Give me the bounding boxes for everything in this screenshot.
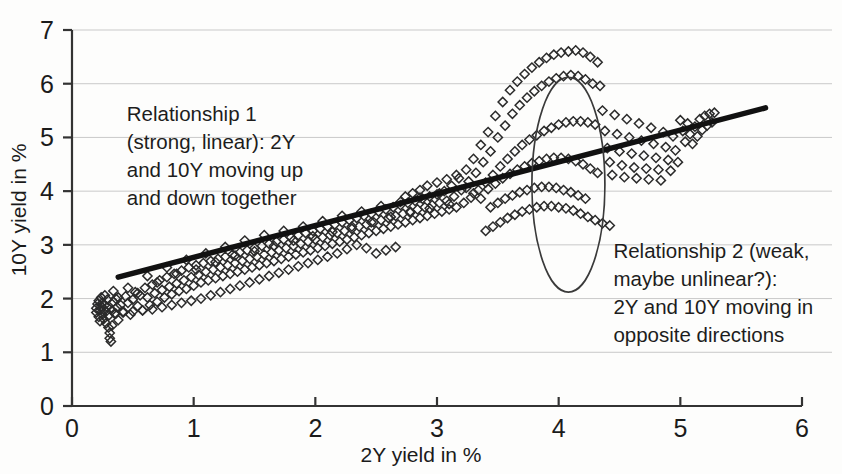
data-point-marker	[644, 175, 653, 184]
data-point-marker	[608, 170, 617, 179]
x-tick-label: 5	[673, 414, 687, 442]
data-point-marker	[520, 69, 529, 78]
x-tick-label: 4	[552, 414, 566, 442]
data-point-marker	[661, 142, 670, 151]
data-point-marker	[226, 284, 235, 293]
data-point-marker	[503, 154, 512, 163]
axis-ticks	[63, 30, 802, 406]
data-point-marker	[642, 164, 651, 173]
y-tick-label: 0	[40, 392, 54, 420]
data-point-marker	[673, 158, 682, 167]
data-point-marker	[664, 155, 673, 164]
data-point-marker	[177, 298, 186, 307]
x-tick-label: 2	[308, 414, 322, 442]
data-point-marker	[235, 281, 244, 290]
data-point-marker	[647, 123, 656, 132]
annotation-line: 2Y and 10Y moving in	[613, 295, 813, 318]
x-tick-label: 0	[65, 414, 79, 442]
x-axis-title: 2Y yield in %	[360, 443, 481, 466]
annotation-line: (strong, linear): 2Y	[127, 130, 296, 153]
data-point-marker	[617, 161, 626, 170]
data-point-marker	[501, 121, 510, 130]
data-point-marker	[671, 146, 680, 155]
data-point-marker	[432, 178, 441, 187]
x-tick-labels: 0123456	[65, 414, 809, 442]
annotation-line: opposite directions	[613, 323, 784, 346]
data-point-marker	[381, 246, 390, 255]
data-point-marker	[469, 154, 478, 163]
data-point-marker	[634, 119, 643, 128]
data-point-marker	[510, 147, 519, 156]
data-point-marker	[486, 147, 495, 156]
highlight-ellipse	[532, 77, 605, 292]
data-point-marker	[294, 262, 303, 271]
annotation-line: and down together	[127, 186, 297, 209]
data-point-marker	[630, 163, 639, 172]
data-point-marker	[513, 77, 522, 86]
data-point-marker	[476, 194, 485, 203]
data-point-marker	[620, 173, 629, 182]
data-point-marker	[274, 268, 283, 277]
data-point-marker	[187, 296, 196, 305]
data-point-marker	[505, 86, 514, 95]
y-tick-label: 4	[40, 177, 54, 205]
y-tick-label: 2	[40, 285, 54, 313]
data-point-marker	[303, 259, 312, 268]
data-point-marker	[284, 265, 293, 274]
data-point-marker	[530, 87, 539, 96]
y-tick-label: 5	[40, 123, 54, 151]
data-point-marker	[471, 168, 480, 177]
y-tick-label: 6	[40, 70, 54, 98]
data-point-marker	[255, 275, 264, 284]
y-tick-label: 3	[40, 231, 54, 259]
data-point-marker	[522, 93, 531, 102]
data-point-marker	[593, 58, 602, 67]
x-tick-label: 1	[187, 414, 201, 442]
data-point-marker	[484, 127, 493, 136]
y-tick-labels: 01234567	[40, 16, 54, 420]
data-point-marker	[491, 111, 500, 120]
data-point-marker	[666, 166, 675, 175]
data-point-marker	[333, 249, 342, 258]
data-point-marker	[245, 278, 254, 287]
y-tick-label: 7	[40, 16, 54, 44]
scatter-plot-figure: 0123456 01234567 Relationship 1(strong, …	[0, 0, 842, 474]
annotation-labels: Relationship 1(strong, linear): 2Yand 10…	[127, 102, 814, 346]
data-point-marker	[496, 162, 505, 171]
data-point-marker	[138, 306, 147, 315]
data-point-marker	[167, 300, 176, 309]
data-point-marker	[342, 245, 351, 254]
data-point-marker	[639, 151, 648, 160]
data-point-marker	[476, 140, 485, 149]
x-tick-label: 3	[430, 414, 444, 442]
axis-lines	[72, 30, 802, 406]
data-point-marker	[462, 165, 471, 174]
annotation-line: Relationship 1	[127, 102, 257, 125]
chart-canvas: 0123456 01234567 Relationship 1(strong, …	[0, 0, 842, 474]
data-point-marker	[610, 110, 619, 119]
data-point-marker	[518, 140, 527, 149]
data-point-marker	[138, 306, 147, 315]
data-point-marker	[654, 165, 663, 174]
data-point-marker	[498, 97, 507, 106]
annotation-line: Relationship 2 (weak,	[613, 239, 809, 262]
data-point-marker	[265, 271, 274, 280]
data-point-marker	[656, 176, 665, 185]
x-tick-label: 6	[795, 414, 809, 442]
data-point-marker	[605, 158, 614, 167]
y-axis-title: 10Y yield in %	[7, 144, 30, 277]
annotation-line: and 10Y moving up	[127, 158, 303, 181]
data-point-marker	[479, 158, 488, 167]
data-point-marker	[323, 252, 332, 261]
data-point-marker	[632, 174, 641, 183]
data-point-marker	[651, 153, 660, 162]
y-tick-label: 1	[40, 338, 54, 366]
data-point-marker	[527, 63, 536, 72]
data-point-marker	[391, 242, 400, 251]
data-point-marker	[627, 149, 636, 158]
data-point-marker	[598, 106, 607, 115]
data-point-marker	[600, 126, 609, 135]
data-point-marker	[372, 249, 381, 258]
data-point-marker	[216, 288, 225, 297]
annotation-line: maybe unlinear?):	[613, 267, 777, 290]
